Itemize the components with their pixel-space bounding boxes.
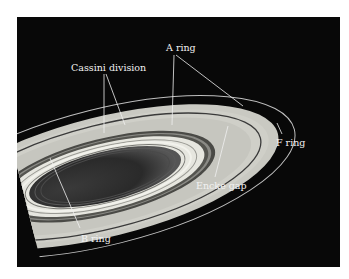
label-cassini-division: Cassini division [71, 62, 146, 73]
label-b-ring: B ring [81, 233, 111, 244]
label-f-ring: F ring [276, 137, 305, 148]
label-encke-gap: Encke gap [196, 180, 247, 191]
saturn-rings-photo: A ring Cassini division F ring Encke gap… [17, 17, 340, 267]
rings-illustration: A ring Cassini division F ring Encke gap… [17, 17, 340, 267]
label-a-ring: A ring [165, 42, 196, 53]
